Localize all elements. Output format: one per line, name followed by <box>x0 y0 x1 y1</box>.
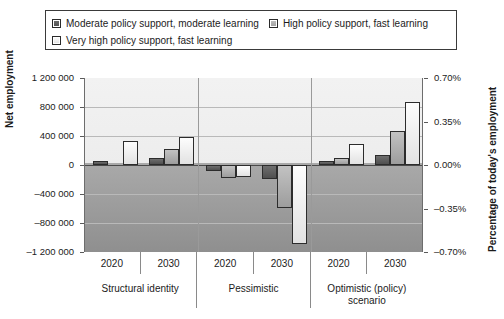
x-axis-group-label: Structural identity <box>84 274 196 308</box>
y2-tick-label: 0.35% <box>434 116 461 127</box>
y2-tick-mark <box>424 165 428 166</box>
legend-label-high: High policy support, fast learning <box>283 18 428 29</box>
legend-item-high: High policy support, fast learning <box>269 18 428 29</box>
x-axis-year-label: 2030 <box>140 252 197 274</box>
x-axis: 202020302020203020202030 Structural iden… <box>84 252 423 308</box>
y-tick-mark <box>80 107 84 108</box>
plot-area <box>84 78 423 252</box>
x-axis-year-label: 2030 <box>366 252 423 274</box>
bar-series-2-cat-4 <box>349 144 364 165</box>
y2-tick-mark <box>424 78 428 79</box>
y2-tick-label: –0.70% <box>434 246 466 257</box>
dark-gray-square-icon <box>52 19 61 28</box>
legend-label-moderate: Moderate policy support, moderate learni… <box>66 18 259 29</box>
y-tick-label: –800 000 <box>0 217 74 228</box>
y-tick-mark <box>80 78 84 79</box>
y-tick-mark <box>80 252 84 253</box>
bar-series-0-cat-2 <box>206 165 221 171</box>
y-tick-label: 0 <box>0 159 74 170</box>
bar-series-1-cat-4 <box>334 158 349 165</box>
bar-series-0-cat-3 <box>262 165 277 179</box>
y-tick-mark <box>80 165 84 166</box>
y-axis-title-left: Net employment <box>4 50 15 128</box>
y-tick-label: 1 200 000 <box>0 72 74 83</box>
x-axis-year-row: 202020302020203020202030 <box>84 252 423 274</box>
bar-series-2-cat-2 <box>236 165 251 177</box>
bar-series-1-cat-2 <box>221 165 236 178</box>
zero-line <box>85 165 422 166</box>
group-separator <box>198 78 199 252</box>
x-axis-year-label: 2020 <box>310 252 367 274</box>
y-tick-label: 800 000 <box>0 101 74 112</box>
chart-legend: Moderate policy support, moderate learni… <box>45 10 457 50</box>
bar-series-2-cat-5 <box>405 102 420 165</box>
y-tick-mark <box>80 223 84 224</box>
bar-series-1-cat-5 <box>390 131 405 165</box>
x-axis-group-label: Optimistic (policy) scenario <box>310 274 423 308</box>
group-separator <box>311 78 312 252</box>
medium-gray-square-icon <box>269 19 278 28</box>
x-axis-year-label: 2020 <box>196 252 253 274</box>
y-axis-title-right: Percentage of today's employment <box>487 87 498 252</box>
white-square-icon <box>52 36 61 45</box>
y-tick-mark <box>80 194 84 195</box>
y-tick-label: 400 000 <box>0 130 74 141</box>
bar-series-0-cat-0 <box>93 161 108 165</box>
y2-tick-mark <box>424 252 428 253</box>
legend-item-moderate: Moderate policy support, moderate learni… <box>52 18 259 29</box>
x-axis-year-label: 2030 <box>253 252 310 274</box>
gridline <box>85 194 422 195</box>
y2-tick-label: 0.70% <box>434 72 461 83</box>
bar-series-2-cat-1 <box>179 137 194 165</box>
y2-tick-label: –0.35% <box>434 203 466 214</box>
legend-item-veryhigh: Very high policy support, fast learning <box>52 35 232 46</box>
bar-series-1-cat-3 <box>277 165 292 208</box>
bar-series-0-cat-1 <box>149 158 164 165</box>
legend-row-1: Moderate policy support, moderate learni… <box>52 15 450 32</box>
y-tick-label: –400 000 <box>0 188 74 199</box>
bar-series-2-cat-3 <box>292 165 307 244</box>
y2-tick-mark <box>424 122 428 123</box>
gridline <box>85 136 422 137</box>
x-axis-group-label: Pessimistic <box>196 274 309 308</box>
bar-series-1-cat-1 <box>164 149 179 165</box>
legend-label-veryhigh: Very high policy support, fast learning <box>66 35 232 46</box>
gridline <box>85 107 422 108</box>
y2-tick-mark <box>424 209 428 210</box>
gridline <box>85 223 422 224</box>
y2-tick-label: 0.00% <box>434 159 461 170</box>
y-tick-label: –1 200 000 <box>0 246 74 257</box>
bar-series-0-cat-4 <box>319 161 334 165</box>
x-axis-group-row: Structural identityPessimisticOptimistic… <box>84 274 423 308</box>
y-tick-mark <box>80 136 84 137</box>
bar-series-0-cat-5 <box>375 155 390 165</box>
bar-series-2-cat-0 <box>123 141 138 165</box>
legend-row-2: Very high policy support, fast learning <box>52 32 450 49</box>
x-axis-year-label: 2020 <box>84 252 140 274</box>
